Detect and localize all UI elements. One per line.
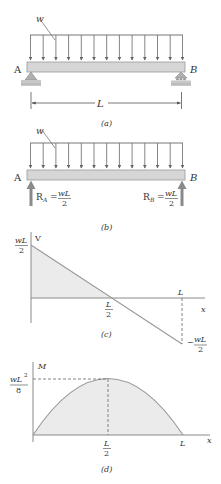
svg-text:2: 2 xyxy=(104,449,109,458)
svg-text:wL: wL xyxy=(15,236,27,245)
span-dimension xyxy=(31,92,182,109)
reaction-label-a: R A = wL 2 xyxy=(36,189,71,208)
beam-diagram: w A B L (a) xyxy=(0,0,221,484)
panel-b: w A B R A = wL 2 R B = wL 2 xyxy=(13,126,197,232)
svg-text:wL: wL xyxy=(165,189,177,198)
v-axis-label: V xyxy=(34,234,41,243)
load-label-w: w xyxy=(36,126,44,136)
caption-b: (b) xyxy=(101,223,112,232)
v-max-label: wL 2 xyxy=(15,236,28,255)
load-leader-line xyxy=(42,22,55,40)
distributed-load-arrows xyxy=(31,143,183,168)
svg-text:=: = xyxy=(157,192,165,202)
svg-text:2: 2 xyxy=(169,199,174,208)
svg-text:A: A xyxy=(42,196,48,203)
roller-support-b xyxy=(171,72,191,86)
support-label-b: B xyxy=(189,64,197,75)
x-axis-label: x xyxy=(207,436,212,445)
svg-text:wL: wL xyxy=(194,335,206,344)
svg-text:2: 2 xyxy=(24,372,28,378)
mid-span-label: L 2 xyxy=(105,300,113,319)
svg-text:8: 8 xyxy=(16,386,21,395)
svg-text:L: L xyxy=(105,300,111,309)
end-label-l: L xyxy=(179,439,185,448)
svg-text:wL: wL xyxy=(58,189,70,198)
support-label-b: B xyxy=(189,172,197,183)
panel-d-moment-diagram: M x wL 2 8 L 2 L (d) xyxy=(10,362,212,474)
svg-text:R: R xyxy=(36,192,43,202)
beam xyxy=(27,170,185,180)
svg-text:wL: wL xyxy=(10,375,22,384)
reaction-arrow-b xyxy=(178,181,187,207)
support-label-a: A xyxy=(13,172,22,183)
svg-text:2: 2 xyxy=(19,246,24,255)
svg-text:L: L xyxy=(103,439,109,448)
load-label-w: w xyxy=(36,14,44,24)
svg-text:B: B xyxy=(149,196,155,203)
end-label-l: L xyxy=(177,288,183,297)
support-label-a: A xyxy=(13,64,22,75)
beam xyxy=(27,62,185,72)
svg-text:2: 2 xyxy=(62,199,67,208)
negative-shear-area xyxy=(110,298,182,345)
pin-support-a xyxy=(21,72,41,86)
reaction-arrow-a xyxy=(27,181,36,207)
svg-text:2: 2 xyxy=(106,310,111,319)
svg-text:−: − xyxy=(187,338,194,347)
caption-d: (d) xyxy=(101,465,112,474)
panel-c-shear-diagram: V x wL 2 L 2 L − wL 2 (c) xyxy=(15,232,207,354)
caption-a: (a) xyxy=(101,119,112,128)
reaction-label-b: R B = wL 2 xyxy=(143,189,178,208)
caption-c: (c) xyxy=(101,330,112,339)
load-leader-line xyxy=(42,130,55,148)
svg-text:=: = xyxy=(50,192,58,202)
svg-text:2: 2 xyxy=(198,345,203,354)
m-axis-label: M xyxy=(37,362,47,371)
mid-span-label: L 2 xyxy=(103,439,111,458)
x-axis-label: x xyxy=(201,305,206,314)
m-max-label: wL 2 8 xyxy=(10,372,28,395)
svg-text:R: R xyxy=(143,192,150,202)
span-label-l: L xyxy=(96,98,104,109)
panel-a: w A B L (a) xyxy=(13,14,197,128)
distributed-load-arrows xyxy=(31,35,183,60)
v-min-label: − wL 2 xyxy=(187,335,207,354)
